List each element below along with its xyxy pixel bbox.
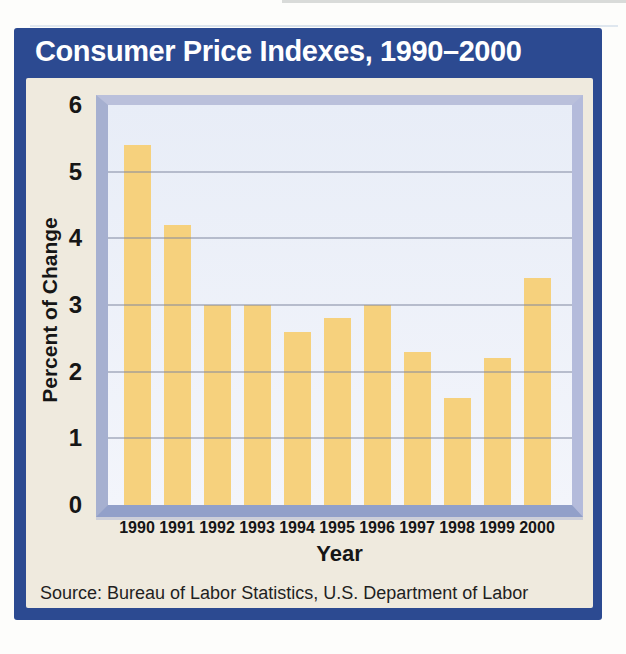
x-tick-label-1991: 1991 [159, 519, 195, 537]
x-tick-label-1992: 1992 [199, 519, 235, 537]
scan-artifact-hairline [30, 25, 618, 27]
x-tick-labels: 1990199119921993199419951996199719981999… [96, 519, 583, 539]
plot-frame [96, 95, 583, 517]
gridline-5 [108, 171, 572, 173]
y-tick-label-0: 0 [26, 492, 82, 518]
gridline-4 [108, 237, 572, 239]
y-tick-label-5: 5 [26, 159, 82, 185]
x-tick-label-2000: 2000 [519, 519, 555, 537]
bar-1991 [164, 225, 191, 505]
chart-title: Consumer Price Indexes, 1990–2000 [35, 35, 587, 75]
scan-artifact-top [282, 0, 626, 3]
y-tick-label-2: 2 [26, 359, 82, 385]
bar-1994 [284, 332, 311, 505]
bar-1995 [324, 318, 351, 505]
bar-2000 [524, 278, 551, 505]
bar-1990 [124, 145, 151, 505]
bar-1992 [204, 305, 231, 505]
y-tick-label-4: 4 [26, 225, 82, 251]
gridline-3 [108, 304, 572, 306]
x-tick-label-1990: 1990 [119, 519, 155, 537]
x-tick-label-1998: 1998 [439, 519, 475, 537]
bar-1997 [404, 352, 431, 505]
x-tick-label-1994: 1994 [279, 519, 315, 537]
y-tick-label-3: 3 [26, 292, 82, 318]
x-axis-title: Year [96, 541, 583, 567]
gridline-1 [108, 437, 572, 439]
x-tick-label-1995: 1995 [319, 519, 355, 537]
x-tick-label-1993: 1993 [239, 519, 275, 537]
chart-card: Consumer Price Indexes, 1990–2000 Percen… [14, 28, 602, 620]
gridline-2 [108, 371, 572, 373]
chart-panel: Percent of Change 0123456 19901991199219… [26, 78, 593, 608]
x-tick-label-1999: 1999 [479, 519, 515, 537]
bar-1993 [244, 305, 271, 505]
x-tick-label-1996: 1996 [359, 519, 395, 537]
y-tick-label-6: 6 [26, 92, 82, 118]
bar-1998 [444, 398, 471, 505]
y-tick-label-1: 1 [26, 425, 82, 451]
x-tick-label-1997: 1997 [399, 519, 435, 537]
bar-1999 [484, 358, 511, 505]
plot-area [108, 105, 572, 505]
source-attribution: Source: Bureau of Labor Statistics, U.S.… [40, 583, 580, 604]
bar-1996 [364, 305, 391, 505]
